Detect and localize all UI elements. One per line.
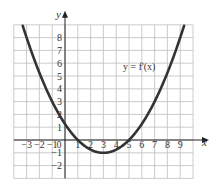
plot-area: −3−2−1012345678987654321−1−2 y = f'(x) x… — [0, 0, 216, 185]
x-tick-label: 3 — [101, 139, 106, 150]
x-tick-label: 6 — [139, 139, 144, 150]
grid — [14, 25, 193, 179]
x-tick-label: −2 — [34, 139, 45, 150]
x-tick-label: −3 — [21, 139, 32, 150]
y-tick-label: 6 — [57, 58, 62, 69]
y-tick-label: −1 — [51, 147, 62, 158]
y-tick-label: 1 — [57, 122, 62, 133]
y-tick-label: 3 — [57, 96, 62, 107]
y-axis-arrow-icon — [62, 11, 68, 18]
y-tick-label: 5 — [57, 71, 62, 82]
x-tick-label: 8 — [165, 139, 170, 150]
x-axis-label: x — [201, 136, 207, 148]
y-tick-label: −2 — [51, 160, 62, 171]
x-tick-label: 7 — [152, 139, 157, 150]
y-tick-label: 8 — [57, 32, 62, 43]
chart: −3−2−1012345678987654321−1−2 y = f'(x) x… — [0, 0, 216, 185]
x-tick-label: 9 — [178, 139, 183, 150]
y-tick-label: 7 — [57, 45, 62, 56]
y-tick-label: 4 — [57, 83, 62, 94]
function-label: y = f'(x) — [123, 61, 155, 73]
y-axis-label: y — [55, 8, 61, 20]
